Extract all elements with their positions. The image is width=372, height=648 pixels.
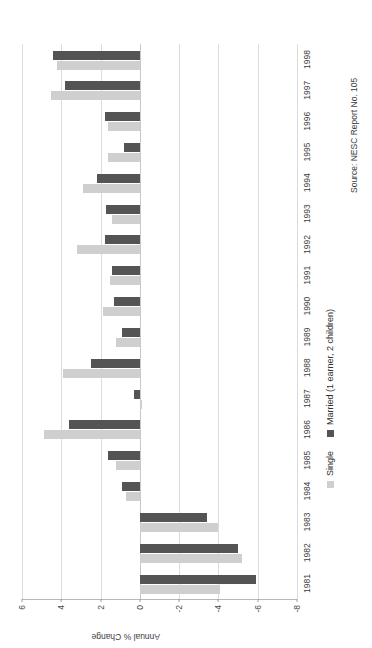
x-tick-label-1982: 1982: [302, 543, 312, 562]
y-tick-label: -6: [253, 605, 263, 633]
x-tick-label-1983: 1983: [302, 512, 312, 531]
legend-item-married[interactable]: Married (1 earner, 2 children): [325, 309, 335, 437]
bar-single-1993[interactable]: [112, 215, 140, 224]
y-tick-label: -4: [213, 605, 223, 633]
x-tick-label-1991: 1991: [302, 266, 312, 285]
bar-group: 1998: [22, 44, 297, 75]
bar-group: 1983: [22, 507, 297, 538]
legend-label-married: Married (1 earner, 2 children): [325, 309, 335, 425]
bar-married-1998[interactable]: [53, 51, 139, 60]
bar-married-1981[interactable]: [140, 575, 256, 584]
x-tick-label-1995: 1995: [302, 143, 312, 162]
rotated-chart-stage: Annual % Change 6420-2-4-6-8 19811982198…: [0, 0, 372, 648]
chart-area: Annual % Change 6420-2-4-6-8 19811982198…: [0, 0, 372, 648]
gridline--8: [297, 44, 298, 599]
bar-married-1985[interactable]: [108, 451, 139, 460]
bar-group: 1982: [22, 537, 297, 568]
bar-single-1992[interactable]: [77, 245, 140, 254]
y-tick-mark: [297, 599, 298, 602]
bar-group: 1992: [22, 229, 297, 260]
bar-single-1996[interactable]: [108, 122, 139, 131]
y-tick-label: 6: [17, 605, 27, 633]
bar-married-1989[interactable]: [122, 328, 140, 337]
bar-married-1996[interactable]: [105, 112, 140, 121]
x-tick-label-1986: 1986: [302, 420, 312, 439]
bar-single-1982[interactable]: [140, 554, 242, 563]
source-note: Source: NESC Report No. 105: [349, 78, 359, 193]
bar-group: 1988: [22, 352, 297, 383]
bar-group: 1995: [22, 137, 297, 168]
y-tick-mark: [22, 599, 23, 602]
y-tick-label: 0: [135, 605, 145, 633]
bar-married-1988[interactable]: [91, 359, 140, 368]
bar-single-1981[interactable]: [140, 585, 221, 594]
x-tick-label-1990: 1990: [302, 297, 312, 316]
bar-single-1991[interactable]: [110, 276, 139, 285]
y-tick-label: 4: [56, 605, 66, 633]
bar-single-1988[interactable]: [63, 369, 140, 378]
legend-label-single: Single: [325, 451, 335, 476]
y-tick-label: -8: [292, 605, 302, 633]
bar-married-1992[interactable]: [105, 235, 140, 244]
bar-married-1990[interactable]: [114, 297, 140, 306]
bar-single-1985[interactable]: [116, 461, 140, 470]
bar-married-1983[interactable]: [140, 513, 207, 522]
bar-married-1997[interactable]: [65, 81, 140, 90]
bar-single-1984[interactable]: [126, 492, 140, 501]
legend-item-single[interactable]: Single: [325, 451, 335, 488]
bar-group: 1991: [22, 260, 297, 291]
y-axis-title: Annual % Change: [146, 632, 160, 642]
bar-single-1994[interactable]: [83, 184, 140, 193]
married-swatch-icon: [327, 430, 334, 437]
bar-single-1997[interactable]: [51, 91, 139, 100]
bar-single-1986[interactable]: [44, 430, 140, 439]
bar-group: 1984: [22, 476, 297, 507]
bar-single-1998[interactable]: [57, 61, 140, 70]
bar-groups: 1981198219831984198519861987198819891990…: [22, 44, 297, 599]
bar-married-1984[interactable]: [122, 482, 140, 491]
bar-married-1991[interactable]: [112, 266, 140, 275]
x-tick-label-1992: 1992: [302, 235, 312, 254]
y-tick-mark: [139, 599, 140, 602]
bar-married-1995[interactable]: [124, 143, 140, 152]
y-tick-mark: [179, 599, 180, 602]
bar-group: 1981: [22, 568, 297, 599]
bar-group: 1994: [22, 167, 297, 198]
plot-region: 6420-2-4-6-8 198119821983198419851986198…: [22, 44, 297, 600]
x-tick-label-1997: 1997: [302, 81, 312, 100]
x-tick-label-1987: 1987: [302, 389, 312, 408]
x-tick-label-1985: 1985: [302, 451, 312, 470]
bar-group: 1985: [22, 445, 297, 476]
single-swatch-icon: [327, 481, 334, 488]
x-tick-label-1993: 1993: [302, 204, 312, 223]
x-tick-label-1988: 1988: [302, 358, 312, 377]
legend: Single Married (1 earner, 2 children): [325, 309, 335, 488]
y-tick-mark: [257, 599, 258, 602]
bar-single-1995[interactable]: [108, 153, 139, 162]
x-tick-label-1989: 1989: [302, 328, 312, 347]
bar-married-1994[interactable]: [97, 174, 140, 183]
bar-married-1982[interactable]: [140, 544, 238, 553]
y-tick-label: -2: [174, 605, 184, 633]
x-tick-label-1998: 1998: [302, 50, 312, 69]
bar-group: 1997: [22, 75, 297, 106]
y-tick-mark: [100, 599, 101, 602]
x-tick-label-1996: 1996: [302, 112, 312, 131]
y-tick-label: 2: [96, 605, 106, 633]
bar-group: 1986: [22, 414, 297, 445]
x-tick-label-1984: 1984: [302, 482, 312, 501]
bar-group: 1989: [22, 322, 297, 353]
bar-married-1993[interactable]: [106, 205, 139, 214]
bar-single-1989[interactable]: [116, 338, 140, 347]
bar-group: 1996: [22, 106, 297, 137]
bar-single-1987[interactable]: [140, 400, 142, 409]
bar-married-1987[interactable]: [134, 390, 140, 399]
bar-single-1990[interactable]: [103, 307, 140, 316]
bar-group: 1990: [22, 291, 297, 322]
bar-married-1986[interactable]: [69, 420, 140, 429]
y-tick-mark: [61, 599, 62, 602]
y-tick-mark: [218, 599, 219, 602]
x-tick-label-1981: 1981: [302, 574, 312, 593]
bar-group: 1987: [22, 383, 297, 414]
bar-single-1983[interactable]: [140, 523, 219, 532]
